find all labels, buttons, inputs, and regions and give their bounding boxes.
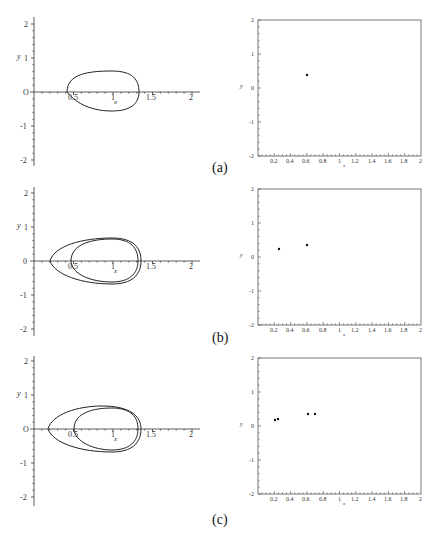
x-axis-label: x (342, 501, 346, 506)
ytick: -1 (20, 291, 27, 300)
xtick: 1.4 (368, 158, 376, 164)
data-point (314, 413, 316, 415)
origin-label: 0 (23, 257, 27, 266)
ytick: -1 (249, 119, 254, 125)
ytick: 1 (251, 389, 254, 395)
ytick: 1 (24, 54, 28, 63)
xtick: 1.4 (368, 496, 376, 502)
x-axis-label: x (113, 435, 118, 443)
xtick: 0.8 (319, 496, 327, 502)
xtick: 1.6 (384, 496, 392, 502)
xtick: 1.8 (400, 158, 408, 164)
origin-label: O (23, 425, 29, 434)
ytick: 0 (251, 254, 254, 260)
xtick: 2 (189, 93, 193, 102)
xtick: 0.8 (319, 327, 327, 333)
xtick: 0.5 (68, 93, 78, 102)
ytick: 1 (251, 51, 254, 57)
phase-plot-left-a: 2 1 O -1 -2 y 0.5 1 1.5 2 x (0, 0, 210, 172)
y-axis-label: y (16, 52, 21, 61)
data-point (278, 248, 280, 250)
ytick: -1 (249, 288, 254, 294)
panel-b: 2 1 0 -1 -2 y 0.5 1 1.5 2 x 2 1 0 -1 -2 (0, 170, 436, 342)
panel-a: 2 1 O -1 -2 y 0.5 1 1.5 2 x 2 1 0 -1 -2 (0, 0, 436, 172)
scatter-plot-right-a: 2 1 0 -1 -2 y 0.2 0.4 0.6 0.8 1 1.2 1.4 … (236, 0, 436, 172)
ytick: 2 (24, 20, 28, 29)
xtick: 1 (338, 327, 341, 333)
origin-label: O (23, 88, 29, 97)
ytick: 0 (251, 85, 254, 91)
x-axis-label: x (113, 267, 118, 275)
y-axis-label: y (239, 421, 243, 427)
xtick: 0.2 (270, 158, 278, 164)
xtick: 0.4 (286, 327, 294, 333)
ytick: 0 (251, 423, 254, 429)
ytick: -2 (20, 156, 27, 165)
y-axis-label: y (16, 221, 21, 230)
x-axis-label: x (342, 332, 346, 337)
data-point (274, 419, 276, 421)
ytick: -1 (20, 122, 27, 131)
xtick: 0.2 (270, 496, 278, 502)
xtick: 2 (189, 430, 193, 439)
ytick: 2 (251, 186, 254, 192)
ytick: 2 (251, 355, 254, 361)
xtick: 2 (189, 262, 193, 271)
panel-c: 2 1 O -1 -2 y 0.5 1 1.5 2 x 2 1 0 -1 (0, 340, 436, 512)
xtick: 0.5 (68, 262, 78, 271)
xtick: 1.6 (384, 158, 392, 164)
x-axis-label: x (113, 98, 118, 106)
xtick: 1.8 (400, 327, 408, 333)
xtick: 0.4 (286, 496, 294, 502)
xtick: 1.5 (146, 262, 156, 271)
data-point (306, 74, 308, 76)
ytick: 2 (24, 357, 28, 366)
ytick: -2 (249, 491, 254, 497)
x-axis-label: x (342, 163, 346, 168)
phase-plot-left-c: 2 1 O -1 -2 y 0.5 1 1.5 2 x (0, 340, 210, 512)
xtick: 0.6 (302, 158, 310, 164)
xtick: 2 (419, 327, 422, 333)
xtick: 0.5 (68, 430, 78, 439)
y-axis-label: y (16, 389, 21, 398)
orbit-curve (67, 71, 139, 111)
xtick: 1 (338, 158, 341, 164)
data-point (307, 413, 309, 415)
ytick: -2 (249, 153, 254, 159)
ytick: 2 (251, 17, 254, 23)
xtick: 1.2 (351, 158, 359, 164)
ytick: 1 (251, 220, 254, 226)
xtick: 2 (419, 158, 422, 164)
data-point (306, 244, 308, 246)
xtick: 1.5 (146, 93, 156, 102)
ytick: -2 (249, 322, 254, 328)
xtick: 1.2 (351, 496, 359, 502)
xtick: 1 (338, 496, 341, 502)
y-axis-label: y (239, 252, 243, 258)
xtick: 1.5 (146, 430, 156, 439)
scatter-plot-right-b: 2 1 0 -1 -2 y 0.2 0.4 0.6 0.8 1 1.2 1.4 … (236, 170, 436, 342)
ytick: -2 (20, 493, 27, 502)
xtick: 1.2 (351, 327, 359, 333)
scatter-plot-right-c: 2 1 0 -1 -2 y 0.2 0.4 0.6 0.8 1 1.2 1.4 … (236, 340, 436, 520)
xtick: 0.8 (319, 158, 327, 164)
ytick: -1 (20, 459, 27, 468)
caption-c: (c) (212, 512, 228, 528)
ytick: 1 (24, 391, 28, 400)
y-axis-label: y (239, 83, 243, 89)
xtick: 1.8 (400, 496, 408, 502)
ytick: -2 (20, 325, 27, 334)
inner-orbit-curve (71, 239, 138, 282)
ytick: -1 (249, 457, 254, 463)
data-point (277, 418, 279, 420)
xtick: 1.6 (384, 327, 392, 333)
xtick: 0.6 (302, 496, 310, 502)
xtick: 1.4 (368, 327, 376, 333)
xtick: 0.4 (286, 158, 294, 164)
ytick: 2 (24, 189, 28, 198)
phase-plot-left-b: 2 1 0 -1 -2 y 0.5 1 1.5 2 x (0, 170, 210, 342)
ytick: 1 (24, 223, 28, 232)
xtick: 0.2 (270, 327, 278, 333)
xtick: 2 (419, 496, 422, 502)
xtick: 0.6 (302, 327, 310, 333)
